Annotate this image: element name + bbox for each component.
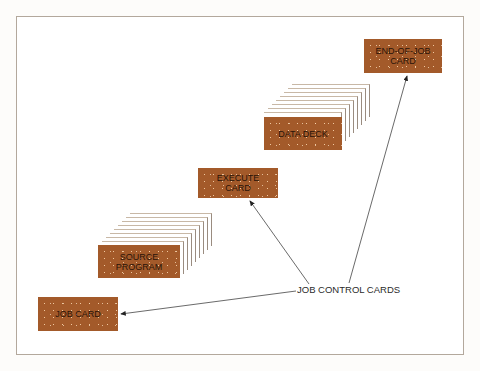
- job-control-cards-label: JOB CONTROL CARDS: [297, 284, 400, 295]
- callout-arrows: [0, 0, 480, 371]
